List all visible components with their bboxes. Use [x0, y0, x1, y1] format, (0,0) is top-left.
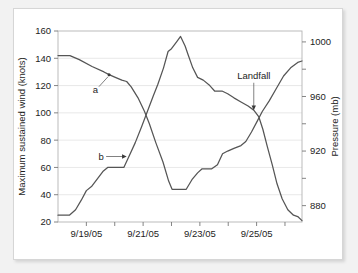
y-axis-ticks	[54, 31, 58, 222]
y-axis-tick-labels: 20406080100120140160	[35, 25, 51, 227]
y-axis-tick-label: 100	[35, 107, 51, 118]
y2-axis-tick-label: 960	[310, 91, 326, 102]
x-axis-tick-label: 9/19/05	[71, 228, 103, 239]
x-axis-tick-label: 9/25/05	[241, 228, 273, 239]
hurricane-intensity-chart: 20406080100120140160 8809209601000 9/19/…	[14, 9, 342, 259]
x-axis-tick-label: 9/23/05	[184, 228, 216, 239]
annotation-text: b	[98, 151, 103, 162]
x-axis-ticks	[86, 222, 285, 226]
y2-axis-ticks	[302, 42, 306, 206]
y-axis-tick-label: 80	[40, 135, 51, 146]
y-axis-title: Maximum sustained wind (knots)	[16, 57, 27, 195]
wind-series-line	[58, 36, 302, 220]
y2-axis-tick-labels: 8809209601000	[310, 36, 331, 211]
x-axis-tick-label: 9/21/05	[127, 228, 159, 239]
y-axis-tick-label: 60	[40, 162, 51, 173]
annotation-arrowhead	[122, 154, 127, 158]
x-axis-tick-labels: 9/19/059/21/059/23/059/25/05	[71, 228, 273, 239]
y-axis-tick-label: 20	[40, 216, 51, 227]
y2-axis-tick-label: 1000	[310, 36, 331, 47]
y-axis-tick-label: 120	[35, 80, 51, 91]
annotation-text: a	[93, 84, 99, 95]
figure-card: 20406080100120140160 8809209601000 9/19/…	[13, 8, 343, 260]
y-axis-tick-label: 160	[35, 25, 51, 36]
plot-frame	[58, 31, 302, 222]
y2-axis-tick-label: 920	[310, 145, 326, 156]
figure-root: 20406080100120140160 8809209601000 9/19/…	[0, 0, 358, 273]
annotation-leader	[99, 77, 108, 87]
annotation-text: Landfall	[237, 70, 270, 81]
annotation-landfall: Landfall	[237, 70, 270, 110]
annotation-dot	[108, 73, 111, 76]
y2-axis-title: Pressure (mb)	[329, 96, 340, 156]
annotation-b: b	[98, 151, 126, 162]
annotation-a: a	[93, 73, 111, 95]
y-axis-tick-label: 40	[40, 189, 51, 200]
y-axis-tick-label: 140	[35, 53, 51, 64]
annotations-layer: Landfallab	[93, 70, 271, 162]
y2-axis-tick-label: 880	[310, 200, 326, 211]
